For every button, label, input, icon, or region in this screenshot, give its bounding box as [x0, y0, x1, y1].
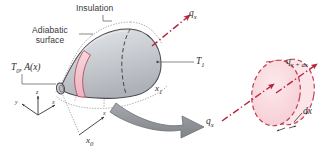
adiabatic-surface-label-line2: surface [22, 36, 78, 46]
axis-x-label: x [52, 99, 55, 105]
x0-projection [62, 93, 79, 133]
t1-sub: 1 [201, 61, 204, 68]
dx-label: dx [303, 106, 312, 116]
qxdx-sub: x + dx [291, 61, 308, 68]
callout-expansion-arrow [110, 103, 204, 138]
qx-lower-sub: x [211, 121, 214, 128]
qx-in [152, 15, 190, 46]
x0-sub: 0 [90, 140, 93, 147]
qx-lower-label: qx [206, 116, 214, 128]
heat-conduction-figure: Insulation Adiabatic surface T0, A(x) T1… [0, 0, 329, 155]
qx-plus-dx-label: qx + dx [286, 56, 308, 68]
qx-top-sub: x [194, 13, 197, 20]
t1-label: T1 [196, 56, 205, 68]
axis-x0-direction-label: x [103, 110, 106, 116]
t0-rest: , A(x) [20, 62, 41, 72]
x0-label: x0 [86, 135, 93, 147]
axis-triad-left [22, 96, 55, 115]
axis-z-label: z [36, 89, 38, 95]
differential-slice-disk [247, 55, 320, 129]
t0-leader [22, 74, 56, 84]
insulation-leader [103, 15, 112, 21]
axis-y-label: y [15, 99, 18, 105]
insulation-label: Insulation [76, 4, 113, 14]
x1-sub: 1 [159, 88, 162, 95]
t0-area-label: T0, A(x) [11, 62, 41, 74]
axis-x0-arrow [79, 117, 104, 135]
qx-top-label: qx [189, 8, 197, 20]
t1-leader [156, 61, 194, 63]
figure-graphics [0, 0, 329, 155]
x1-label: x1 [155, 83, 162, 95]
